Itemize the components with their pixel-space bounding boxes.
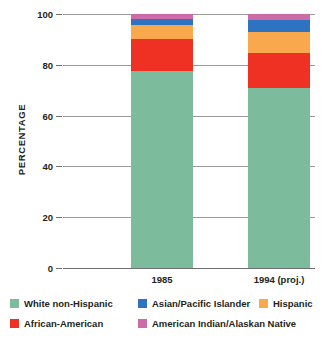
legend-item[interactable]: African-American	[10, 319, 103, 329]
y-tick-label-80: 80	[42, 59, 53, 70]
legend-row: African-AmericanAmerican Indian/Alaskan …	[10, 319, 325, 339]
legend-item[interactable]: Asian/Pacific Islander	[138, 299, 250, 309]
y-axis-title: PERCENTAGE	[16, 70, 27, 210]
bar-segment	[131, 39, 193, 71]
tick-mark-20	[56, 217, 62, 218]
legend-label: Asian/Pacific Islander	[152, 299, 250, 309]
legend-item[interactable]: Hispanic	[259, 299, 313, 309]
legend-label: African-American	[24, 319, 103, 329]
legend-item[interactable]: White non-Hispanic	[10, 299, 113, 309]
gridline-0: 0	[63, 268, 315, 269]
bar-1	[131, 14, 193, 268]
bar-2	[248, 14, 310, 268]
y-tick-label-60: 60	[42, 110, 53, 121]
legend-swatch-icon	[10, 319, 19, 328]
bar-segment	[248, 32, 310, 54]
y-tick-label-20: 20	[42, 212, 53, 223]
legend-swatch-icon	[138, 299, 147, 308]
legend-label: Hispanic	[273, 299, 313, 309]
legend-row: White non-HispanicAsian/Pacific Islander…	[10, 299, 325, 319]
legend-label: White non-Hispanic	[24, 299, 113, 309]
bar-segment	[248, 88, 310, 268]
y-tick-label-0: 0	[48, 263, 53, 274]
bar-segment	[131, 71, 193, 268]
tick-mark-40	[56, 166, 62, 167]
tick-mark-0	[56, 268, 62, 269]
tick-mark-60	[56, 116, 62, 117]
legend-label: American Indian/Alaskan Native	[152, 319, 296, 329]
legend-swatch-icon	[259, 299, 268, 308]
tick-mark-80	[56, 65, 62, 66]
bar-segment	[248, 53, 310, 87]
legend-swatch-icon	[138, 319, 147, 328]
bar-segment	[248, 20, 310, 31]
tick-mark-100	[56, 14, 62, 15]
legend-swatch-icon	[10, 299, 19, 308]
stacked-bar-chart: PERCENTAGE 10080604020019851994 (proj.) …	[0, 0, 329, 349]
plot-area: 10080604020019851994 (proj.)	[63, 14, 315, 268]
x-axis-label-1: 1985	[151, 274, 172, 285]
legend-item[interactable]: American Indian/Alaskan Native	[138, 319, 296, 329]
x-axis-label-2: 1994 (proj.)	[254, 274, 305, 285]
chart-legend: White non-HispanicAsian/Pacific Islander…	[10, 299, 325, 339]
bar-segment	[131, 25, 193, 39]
y-tick-label-100: 100	[37, 9, 53, 20]
y-tick-label-40: 40	[42, 161, 53, 172]
